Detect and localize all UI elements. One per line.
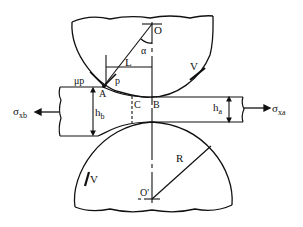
label-mu-p: μp (74, 75, 84, 86)
label-b: B (153, 99, 160, 110)
sigma-xb-arrow (35, 109, 59, 115)
label-alpha: α (141, 45, 147, 56)
tangent-mu-p (90, 72, 104, 86)
label-ha: ha (213, 101, 223, 116)
label-v-top: V (190, 60, 198, 72)
alpha-arc (141, 39, 152, 43)
ha-dimension (227, 97, 231, 122)
label-l: L (125, 56, 132, 68)
rolling-diagram: O α L μp p A C B hb ha σxb σxa R O' V V (0, 0, 303, 227)
v-bottom-arrow-icon (85, 172, 89, 186)
label-o-prime: O' (140, 187, 149, 198)
label-r: R (176, 152, 184, 164)
label-p: p (115, 75, 120, 86)
label-sigma-xb: σxb (13, 105, 27, 120)
upper-roll (72, 16, 213, 98)
label-o: O (154, 24, 162, 36)
label-sigma-xa: σxa (272, 102, 286, 117)
label-hb: hb (95, 106, 105, 121)
sigma-xa-arrow (244, 105, 270, 111)
label-v-bottom: V (90, 173, 98, 185)
label-c: C (134, 99, 141, 110)
label-a: A (99, 88, 107, 99)
